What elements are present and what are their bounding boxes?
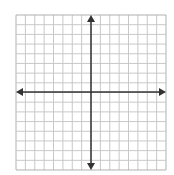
coordinate-plane [0,0,174,175]
arrow-down-icon [87,163,95,170]
arrow-up-icon [87,15,95,22]
arrow-left-icon [16,88,23,96]
axes [16,15,166,170]
arrow-right-icon [159,88,166,96]
